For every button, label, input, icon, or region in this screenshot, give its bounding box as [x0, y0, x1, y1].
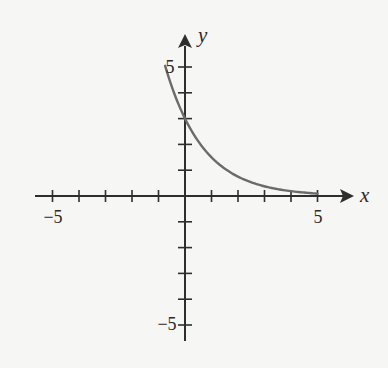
y-tick-label-min: −5	[157, 314, 176, 334]
exponential-decay-graph: −5 5 5 −5 x y	[0, 0, 388, 368]
x-tick-label-min: −5	[43, 207, 62, 227]
y-axis-arrow-icon	[178, 34, 192, 48]
x-axis-label: x	[359, 183, 370, 207]
curve-exponential-decay	[165, 66, 317, 194]
axes	[35, 34, 354, 341]
x-tick-label-max: 5	[314, 207, 323, 227]
y-tick-label-max: 5	[166, 57, 175, 77]
y-axis-label: y	[196, 23, 208, 47]
